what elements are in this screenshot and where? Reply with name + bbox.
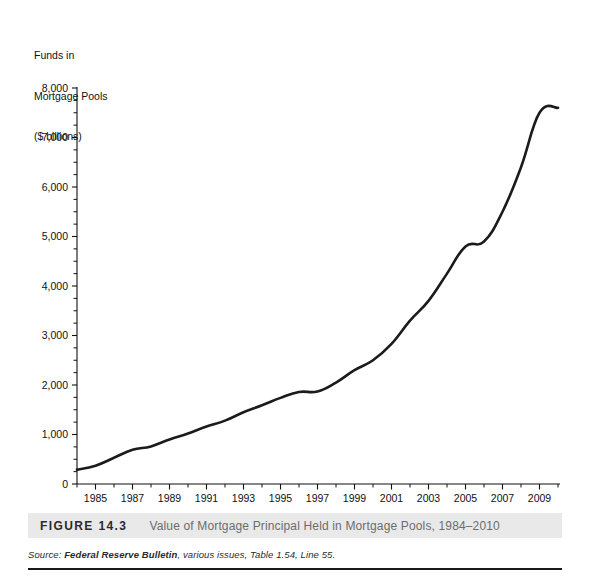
y-tick-label: 4,000 bbox=[42, 280, 68, 292]
x-tick-label: 2003 bbox=[417, 492, 441, 504]
y-tick-label: 7,000 bbox=[42, 131, 68, 143]
x-tick-label: 1985 bbox=[84, 492, 108, 504]
data-series-line bbox=[77, 106, 558, 470]
source-label: Source: bbox=[28, 549, 61, 560]
y-tick-label: 8,000 bbox=[42, 82, 68, 94]
plot-area: 01,0002,0003,0004,0005,0006,0007,0008,00… bbox=[0, 0, 589, 505]
x-tick-label: 2009 bbox=[528, 492, 552, 504]
x-tick-label: 1999 bbox=[343, 492, 367, 504]
x-tick-label: 1987 bbox=[121, 492, 145, 504]
x-tick-label: 1995 bbox=[269, 492, 293, 504]
y-tick-label: 3,000 bbox=[42, 329, 68, 341]
figure-number: FIGURE 14.3 bbox=[40, 519, 127, 533]
source-rest: , various issues, Table 1.54, Line 55. bbox=[177, 549, 335, 560]
figure-caption-band: FIGURE 14.3 Value of Mortgage Principal … bbox=[28, 513, 562, 538]
x-tick-label: 1991 bbox=[195, 492, 219, 504]
y-tick-label: 6,000 bbox=[42, 181, 68, 193]
x-tick-label: 2001 bbox=[380, 492, 404, 504]
figure-source-note: Source: Federal Reserve Bulletin, variou… bbox=[28, 549, 335, 560]
y-axis-tick-labels: 01,0002,0003,0004,0005,0006,0007,0008,00… bbox=[42, 82, 68, 490]
x-tick-label: 1989 bbox=[158, 492, 182, 504]
x-tick-label: 2007 bbox=[491, 492, 515, 504]
bottom-rule bbox=[28, 568, 562, 570]
line-chart-svg: 01,0002,0003,0004,0005,0006,0007,0008,00… bbox=[0, 0, 589, 505]
source-publication: Federal Reserve Bulletin bbox=[64, 549, 177, 560]
x-axis-tick-labels: 1985198719891991199319951997199920012003… bbox=[84, 492, 552, 504]
y-tick-label: 1,000 bbox=[42, 428, 68, 440]
x-axis-major-ticks bbox=[96, 484, 540, 490]
x-tick-label: 2005 bbox=[454, 492, 478, 504]
x-tick-label: 1993 bbox=[232, 492, 256, 504]
x-tick-label: 1997 bbox=[306, 492, 330, 504]
y-tick-label: 2,000 bbox=[42, 379, 68, 391]
figure-title: Value of Mortgage Principal Held in Mort… bbox=[149, 519, 499, 533]
y-axis-major-ticks bbox=[72, 88, 77, 484]
y-tick-label: 0 bbox=[62, 478, 68, 490]
y-tick-label: 5,000 bbox=[42, 230, 68, 242]
figure-container: Funds in Mortgage Pools ($ billions) 01,… bbox=[0, 0, 589, 585]
